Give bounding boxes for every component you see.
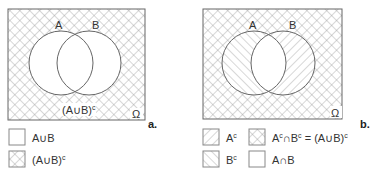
legend-label-union: A∪B: [32, 132, 55, 144]
legend-label-complement-a: Ac: [226, 132, 237, 144]
legend-label-complement-union-a: (A∪B)c: [32, 154, 66, 166]
region-label-complement-union: (A∪B)c: [62, 104, 96, 116]
set-label-b-panel-a: B: [92, 19, 99, 31]
legend-swatch-forward-hatch: [203, 129, 219, 145]
legend-swatch-crosshatch-b: [249, 129, 265, 145]
legend-swatch-blank-a: [9, 129, 25, 145]
set-label-a-panel-b: A: [249, 19, 256, 31]
legend-label-de-morgan: Ac∩Bc = (A∪B)c: [272, 132, 348, 144]
legend-label-complement-b: Bc: [226, 154, 237, 166]
legend-swatch-blank-b: [249, 151, 265, 167]
legend-swatch-back-hatch: [203, 151, 219, 167]
universe-label-panel-b: Ω: [331, 107, 339, 119]
panel-b-diagram: [203, 9, 342, 119]
legend-label-intersection: A∩B: [272, 154, 295, 166]
set-label-b-panel-b: B: [289, 19, 296, 31]
set-label-a-panel-a: A: [55, 19, 62, 31]
universe-label-panel-a: Ω: [132, 108, 140, 120]
panel-tag-b: b.: [360, 118, 370, 130]
legend-swatch-crosshatch-a: [9, 151, 25, 167]
panel-tag-a: a.: [148, 118, 157, 130]
